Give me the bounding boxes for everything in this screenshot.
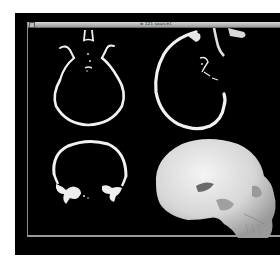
coronal-skull-image bbox=[30, 134, 148, 234]
window-title: w 121 source1 bbox=[28, 21, 280, 27]
sagittal-slice-panel[interactable] bbox=[144, 28, 280, 140]
axial-skull-image bbox=[30, 28, 148, 133]
sagittal-skull-image bbox=[144, 28, 280, 140]
axial-slice-panel[interactable] bbox=[30, 28, 148, 133]
monitor-screen: w 121 source1 bbox=[15, 13, 280, 255]
viewer-window[interactable]: w 121 source1 bbox=[27, 22, 280, 237]
skull-3d-image bbox=[148, 128, 280, 238]
image-viewport[interactable] bbox=[28, 28, 280, 235]
volume-render-panel[interactable] bbox=[148, 128, 280, 238]
coronal-slice-panel[interactable] bbox=[30, 134, 148, 234]
